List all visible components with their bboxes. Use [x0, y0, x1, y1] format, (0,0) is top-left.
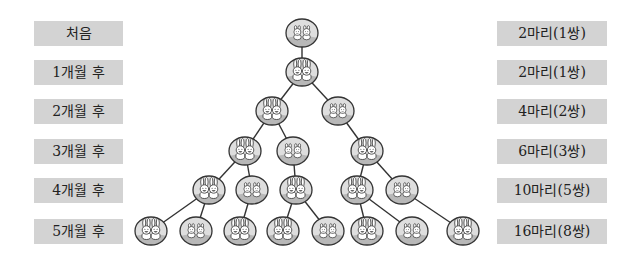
adult-rabbit-pair-node: [267, 217, 299, 245]
baby-rabbit-pair-node: [396, 217, 428, 245]
adult-rabbit-pair-node: [286, 58, 318, 86]
baby-rabbit-pair-node: [236, 176, 268, 204]
baby-rabbit-pair-node: [180, 217, 212, 245]
adult-rabbit-pair-node: [193, 176, 225, 204]
baby-rabbit-pair-node: [312, 217, 344, 245]
adult-rabbit-pair-node: [256, 97, 288, 125]
adult-rabbit-pair-node: [224, 217, 256, 245]
adult-rabbit-pair-node: [229, 137, 261, 165]
adult-rabbit-pair-node: [447, 217, 479, 245]
rabbit-tree: [0, 0, 635, 263]
baby-rabbit-pair-node: [322, 97, 354, 125]
baby-rabbit-pair-node: [286, 19, 318, 47]
adult-rabbit-pair-node: [280, 176, 312, 204]
adult-rabbit-pair-node: [135, 217, 167, 245]
adult-rabbit-pair-node: [341, 176, 373, 204]
baby-rabbit-pair-node: [277, 137, 309, 165]
adult-rabbit-pair-node: [351, 217, 383, 245]
baby-rabbit-pair-node: [386, 176, 418, 204]
adult-rabbit-pair-node: [351, 137, 383, 165]
